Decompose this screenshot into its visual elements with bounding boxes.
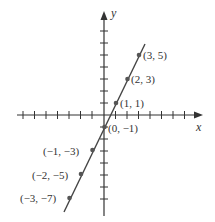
point-1-1 (114, 101, 119, 106)
point-label: (3, 5) (143, 49, 167, 62)
point-0-neg1 (102, 125, 107, 130)
point-label: (0, −1) (108, 122, 138, 135)
point-3-5 (137, 53, 142, 58)
point-2-3 (125, 77, 130, 82)
point-neg1-neg3 (90, 148, 95, 153)
point-label: (−2, −5) (32, 169, 69, 182)
point-neg2-neg5 (79, 172, 84, 177)
point-label: (−1, −3) (43, 145, 80, 158)
point-label: (−3, −7) (20, 192, 57, 205)
coordinate-plane: x y (0, 0, 215, 222)
point-label: (1, 1) (120, 97, 144, 110)
x-axis-label: x (195, 120, 202, 134)
point-labels: (3, 5) (2, 3) (1, 1) (0, −1) (−1, −3) (−… (20, 49, 167, 205)
point-label: (2, 3) (131, 73, 155, 86)
y-axis-label: y (110, 6, 117, 20)
y-axis: y (100, 6, 117, 216)
x-axis-arrow-icon (194, 112, 203, 119)
y-axis-arrow-icon (101, 11, 108, 20)
point-neg3-neg7 (67, 196, 72, 201)
